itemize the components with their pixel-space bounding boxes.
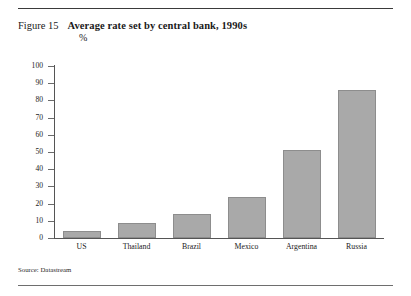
y-axis-tick-label: 70 xyxy=(3,114,43,122)
y-axis-tick-label: 30 xyxy=(3,182,43,190)
x-axis-line xyxy=(54,238,384,239)
y-axis-tick-label: 50 xyxy=(3,148,43,156)
bar xyxy=(228,197,266,238)
y-axis-tick xyxy=(48,83,54,84)
y-axis-tick-label: 0 xyxy=(3,234,43,242)
y-axis-tick-label: 90 xyxy=(3,79,43,87)
y-axis-line xyxy=(54,65,55,239)
x-axis-category-label: Mexico xyxy=(219,242,274,251)
y-axis-tick-label: 100 xyxy=(3,62,43,70)
y-axis-tick xyxy=(48,169,54,170)
y-axis-tick xyxy=(48,118,54,119)
bar-chart: 0102030405060708090100USThailandBrazilMe… xyxy=(0,0,411,296)
source-note: Source: Datastream xyxy=(18,266,71,274)
x-axis-category-label: US xyxy=(54,242,109,251)
bar xyxy=(118,223,156,238)
bar xyxy=(173,214,211,238)
x-axis-category-label: Russia xyxy=(329,242,384,251)
y-axis-tick-label: 40 xyxy=(3,165,43,173)
bar xyxy=(63,231,101,238)
x-axis-category-label: Brazil xyxy=(164,242,219,251)
y-axis-tick-label: 20 xyxy=(3,200,43,208)
y-axis-tick xyxy=(48,238,54,239)
y-axis-tick xyxy=(48,100,54,101)
y-axis-tick xyxy=(48,186,54,187)
y-axis-tick-label: 80 xyxy=(3,96,43,104)
bar xyxy=(338,90,376,238)
x-axis-category-label: Argentina xyxy=(274,242,329,251)
y-axis-tick xyxy=(48,221,54,222)
y-axis-tick xyxy=(48,204,54,205)
bottom-rule xyxy=(18,285,393,286)
bar xyxy=(283,150,321,238)
y-axis-tick-label: 10 xyxy=(3,217,43,225)
y-axis-tick xyxy=(48,135,54,136)
y-axis-tick-label: 60 xyxy=(3,131,43,139)
x-axis-category-label: Thailand xyxy=(109,242,164,251)
y-axis-tick xyxy=(48,152,54,153)
y-axis-tick xyxy=(48,66,54,67)
